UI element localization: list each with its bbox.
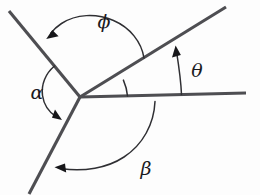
inner-theta-arc-path — [123, 80, 127, 96]
phi-label: ϕ — [98, 12, 111, 31]
alpha-label: α — [31, 83, 44, 102]
alpha-arc-path — [42, 66, 56, 117]
phi-angle-arc — [46, 16, 144, 58]
beta-arrow-head — [55, 164, 67, 173]
alpha-angle-arc — [42, 66, 62, 120]
theta-angle-arc — [172, 46, 182, 95]
ray-group — [9, 7, 246, 194]
theta-label: θ — [191, 61, 202, 80]
phi-arrow-head — [46, 30, 58, 39]
theta-arrow-head — [172, 46, 181, 58]
alpha-arrow-head — [52, 110, 62, 121]
inner-theta-arc — [123, 80, 127, 96]
beta-label: β — [141, 159, 152, 178]
theta-arc-path — [177, 52, 182, 95]
horizontal-right-ray — [80, 93, 246, 97]
angle-diagram-figure: ϕ θ α β — [0, 0, 260, 195]
upper-left-ray — [9, 11, 80, 97]
